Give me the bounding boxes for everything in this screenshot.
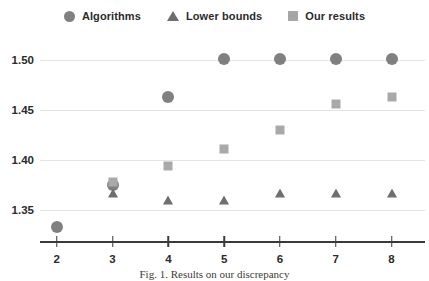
legend-item-lower-bounds: Lower bounds — [167, 10, 262, 22]
y-axis-tick-label: 1.50 — [12, 54, 34, 66]
data-point — [108, 189, 118, 198]
x-axis-tick — [168, 236, 170, 247]
x-axis-tick — [391, 236, 393, 247]
data-point — [219, 196, 229, 205]
x-axis-tick-label: 5 — [221, 253, 227, 265]
data-point — [387, 189, 397, 198]
x-axis-tick-label: 6 — [277, 253, 283, 265]
data-point — [218, 53, 230, 65]
data-point — [275, 126, 284, 135]
data-point — [386, 53, 398, 65]
legend-label-lower-bounds: Lower bounds — [186, 10, 262, 22]
circle-marker-icon — [64, 11, 75, 22]
legend-item-our-results: Our results — [288, 10, 365, 22]
legend-label-our-results: Our results — [305, 10, 365, 22]
square-marker-icon — [288, 11, 298, 21]
triangle-marker-icon — [167, 11, 179, 21]
legend-label-algorithms: Algorithms — [82, 10, 141, 22]
x-axis-tick — [279, 236, 281, 247]
data-point — [387, 93, 396, 102]
data-point — [274, 53, 286, 65]
x-axis: 2345678 — [40, 241, 425, 243]
x-axis-tick — [56, 236, 58, 247]
figure-caption: Fig. 1. Results on our discrepancy — [0, 268, 429, 280]
plot-area: 1.351.401.451.50 — [40, 40, 425, 240]
data-point — [51, 221, 63, 233]
x-axis-tick-label: 3 — [109, 253, 115, 265]
data-point — [162, 91, 174, 103]
data-point — [164, 162, 173, 171]
x-axis-tick-label: 7 — [333, 253, 339, 265]
gridline — [40, 210, 425, 211]
gridline — [40, 60, 425, 61]
y-axis-tick-label: 1.45 — [12, 104, 34, 116]
data-point — [330, 53, 342, 65]
data-point — [163, 196, 173, 205]
y-axis-tick-label: 1.40 — [12, 154, 34, 166]
data-point — [275, 189, 285, 198]
gridline — [40, 160, 425, 161]
x-axis-tick — [223, 236, 225, 247]
y-axis-tick-label: 1.35 — [12, 204, 34, 216]
caption-text: Fig. 1. Results on our discrepancy — [139, 268, 289, 280]
x-axis-tick — [112, 236, 114, 247]
x-axis-tick-label: 4 — [165, 253, 171, 265]
x-axis-tick — [335, 236, 337, 247]
x-axis-tick-label: 2 — [54, 253, 60, 265]
x-axis-tick-label: 8 — [388, 253, 394, 265]
gridline — [40, 110, 425, 111]
legend-item-algorithms: Algorithms — [64, 10, 141, 22]
data-point — [331, 189, 341, 198]
data-point — [108, 178, 117, 187]
chart-legend: Algorithms Lower bounds Our results — [0, 10, 429, 22]
data-point — [220, 145, 229, 154]
data-point — [331, 100, 340, 109]
figure-container: Algorithms Lower bounds Our results 1.35… — [0, 0, 429, 281]
